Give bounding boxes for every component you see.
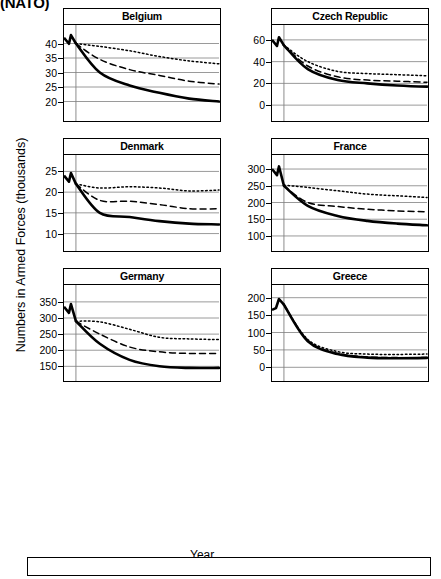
y-tick-mark (58, 102, 63, 103)
y-tick-mark (58, 73, 63, 74)
y-tick-label: 300 (23, 312, 57, 324)
y-tick-mark (266, 105, 271, 106)
y-tick-mark (266, 236, 271, 237)
y-tick-mark (58, 44, 63, 45)
y-tick-mark (58, 318, 63, 319)
y-tick-label: 25 (23, 81, 57, 93)
y-tick-mark (58, 192, 63, 193)
y-tick-label: 25 (23, 165, 57, 177)
y-tick-label: 20 (23, 186, 57, 198)
panel-greece: Greece050100150200 (271, 268, 429, 382)
y-tick-label: 150 (23, 360, 57, 372)
panel-plot (63, 8, 221, 122)
y-tick-mark (58, 58, 63, 59)
chart-page: (NATO) Numbers in Armed Forces (thousand… (0, 0, 441, 579)
y-tick-label: 35 (23, 52, 57, 64)
panel-germany: Germany150200250300350 (63, 268, 221, 382)
y-tick-mark (266, 203, 271, 204)
y-tick-mark (58, 302, 63, 303)
panel-plot (271, 8, 429, 122)
y-tick-label: 30 (23, 67, 57, 79)
panel-czech-republic: Czech Republic0204060 (271, 8, 429, 122)
y-tick-mark (266, 315, 271, 316)
y-tick-label: 250 (23, 328, 57, 340)
legend (27, 557, 431, 576)
y-tick-label: 20 (23, 96, 57, 108)
y-tick-label: 0 (231, 361, 265, 373)
y-tick-mark (58, 171, 63, 172)
y-tick-mark (266, 62, 271, 63)
y-tick-label: 100 (231, 327, 265, 339)
y-tick-mark (58, 87, 63, 88)
y-tick-label: 40 (23, 38, 57, 50)
y-tick-mark (266, 186, 271, 187)
y-tick-mark (58, 334, 63, 335)
y-tick-label: 250 (231, 180, 265, 192)
y-tick-mark (266, 219, 271, 220)
y-tick-label: 0 (231, 99, 265, 111)
panel-plot (63, 268, 221, 382)
y-tick-label: 200 (231, 197, 265, 209)
y-tick-label: 150 (231, 309, 265, 321)
y-tick-label: 20 (231, 77, 265, 89)
y-tick-label: 15 (23, 207, 57, 219)
panel-plot (271, 138, 429, 252)
y-tick-mark (266, 298, 271, 299)
y-tick-label: 60 (231, 34, 265, 46)
panel-france: France100150200250300 (271, 138, 429, 252)
y-tick-label: 100 (231, 230, 265, 242)
panel-belgium: Belgium2025303540 (63, 8, 221, 122)
y-tick-mark (58, 213, 63, 214)
y-tick-mark (58, 234, 63, 235)
y-tick-label: 50 (231, 344, 265, 356)
y-tick-label: 150 (231, 213, 265, 225)
y-tick-label: 200 (23, 344, 57, 356)
y-tick-mark (266, 333, 271, 334)
y-tick-mark (266, 367, 271, 368)
y-tick-mark (266, 350, 271, 351)
y-tick-mark (58, 366, 63, 367)
y-tick-label: 350 (23, 296, 57, 308)
panel-plot (63, 138, 221, 252)
y-tick-label: 300 (231, 163, 265, 175)
y-tick-mark (58, 350, 63, 351)
y-tick-label: 10 (23, 228, 57, 240)
y-tick-mark (266, 169, 271, 170)
y-tick-label: 40 (231, 56, 265, 68)
panel-plot (271, 268, 429, 382)
y-tick-mark (266, 83, 271, 84)
y-tick-label: 200 (231, 292, 265, 304)
y-tick-mark (266, 40, 271, 41)
panel-denmark: Denmark10152025 (63, 138, 221, 252)
